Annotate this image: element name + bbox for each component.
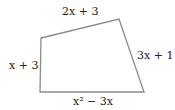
label-left-side: x + 3 [9,60,38,71]
label-right-side: 3x + 1 [137,50,173,61]
quadrilateral-outline [40,19,144,92]
label-bottom-side: x² − 3x [73,96,113,107]
label-top-side: 2x + 3 [62,6,98,17]
